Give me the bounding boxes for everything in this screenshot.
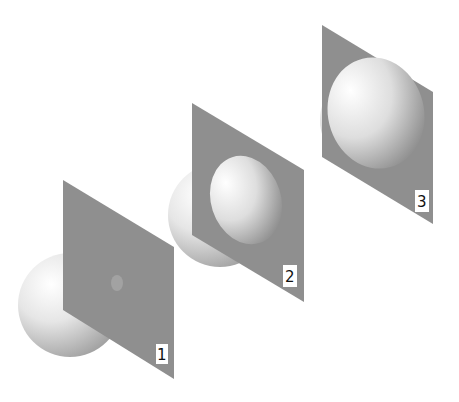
sphere-plane-diagram: 1 2 3 — [0, 0, 459, 402]
sphere-cap — [111, 275, 123, 291]
stage-label: 3 — [417, 193, 427, 211]
stage-2: 2 — [168, 103, 304, 302]
stage-label: 1 — [157, 346, 167, 364]
stage-label: 2 — [285, 268, 295, 286]
stage-3: 3 — [316, 25, 436, 224]
stage-1: 1 — [18, 180, 174, 379]
